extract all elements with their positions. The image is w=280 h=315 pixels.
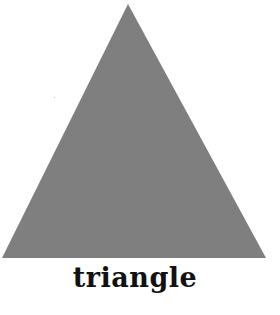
shape-label: triangle — [0, 262, 270, 293]
speck — [54, 97, 55, 98]
triangle-icon — [2, 4, 266, 258]
triangle-shape — [0, 0, 280, 262]
